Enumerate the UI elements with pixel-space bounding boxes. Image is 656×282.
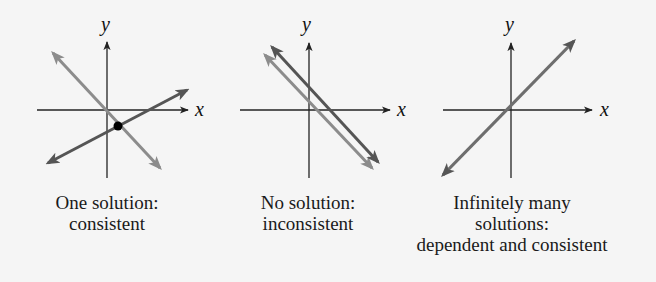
caption-line: inconsistent (261, 213, 355, 234)
parallel-line-dark (272, 47, 378, 162)
coincident-lines (443, 41, 574, 175)
caption-line: dependent and consistent (416, 234, 607, 255)
y-axis-label: y (503, 13, 514, 36)
y-axis-label: y (99, 13, 110, 36)
x-axis-label: x (194, 98, 204, 120)
caption-line: consistent (56, 213, 159, 234)
panel-no-solution: x y (240, 13, 406, 178)
caption-line: Infinitely many (416, 192, 607, 213)
caption-no-solution: No solution: inconsistent (261, 192, 355, 234)
caption-one-solution: One solution: consistent (56, 192, 159, 234)
panel-one-solution: x y (37, 13, 204, 178)
caption-line: solutions: (416, 213, 607, 234)
x-axis-label: x (396, 98, 406, 120)
x-axis-label: x (599, 98, 609, 120)
intersection-point (114, 122, 123, 131)
panel-infinitely-many: x y (443, 13, 609, 178)
caption-line: One solution: (56, 192, 159, 213)
parallel-line-light (265, 55, 372, 168)
caption-line: No solution: (261, 192, 355, 213)
y-axis-label: y (300, 13, 311, 36)
caption-infinitely-many: Infinitely many solutions: dependent and… (416, 192, 607, 255)
